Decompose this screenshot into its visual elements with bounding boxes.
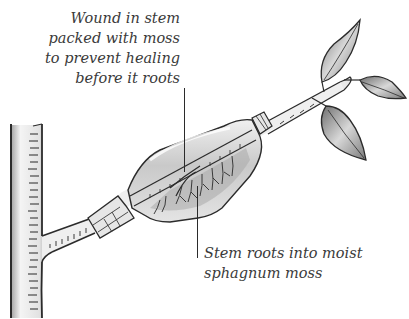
label-line: Wound in stem	[45, 8, 180, 28]
label-stem-roots: Stem roots into moist sphagnum moss	[204, 243, 363, 283]
label-line: sphagnum moss	[204, 263, 363, 283]
leaf-bottom	[312, 98, 366, 160]
label-line: packed with moss	[45, 28, 180, 48]
label-line: before it roots	[45, 68, 180, 88]
main-trunk	[10, 124, 52, 318]
leaf-right	[344, 76, 406, 98]
label-line: to prevent healing	[45, 48, 180, 68]
label-wound-in-stem: Wound in stem packed with moss to preven…	[45, 8, 180, 88]
air-layering-diagram: Wound in stem packed with moss to preven…	[0, 0, 409, 319]
label-line: Stem roots into moist	[204, 243, 363, 263]
